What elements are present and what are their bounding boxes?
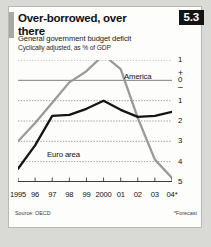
x-tick-label: 96 <box>31 190 39 199</box>
source-note: Source: OECD <box>15 210 51 216</box>
y-axis-labels: 1012345+– <box>176 60 198 182</box>
x-tick-label: 2000 <box>96 190 112 199</box>
x-tick-label: 01 <box>117 190 125 199</box>
series-label-euro: Euro area <box>47 150 80 159</box>
x-tick-label: 97 <box>48 190 56 199</box>
x-tick-label: 98 <box>65 190 73 199</box>
series-line-euro-area <box>18 101 172 169</box>
x-axis-labels: 199596979899200001020304* <box>10 190 190 202</box>
x-tick-label: 04* <box>167 190 178 199</box>
y-tick-label: 3 <box>178 137 182 145</box>
chart-subtitle: General government budget deficit <box>18 34 131 43</box>
series-label-america: America <box>124 72 152 81</box>
chart-units-label: Cyclically adjusted, as % of GDP <box>18 44 111 51</box>
y-tick-label: 5 <box>178 178 182 186</box>
chart-figure: Over-borrowed, over there 5.3 General go… <box>0 0 211 247</box>
title-accent-bar <box>9 12 14 38</box>
x-tick-label: 02 <box>134 190 142 199</box>
y-tick-label: 1 <box>178 56 182 64</box>
y-tick-label: 2 <box>178 117 182 125</box>
x-tick-label: 1995 <box>10 190 26 199</box>
x-tick-label: 03 <box>151 190 159 199</box>
forecast-note: *Forecast <box>174 210 197 216</box>
x-axis-ticks <box>18 178 172 182</box>
y-axis-minus-sign: – <box>178 83 183 91</box>
y-axis-plus-sign: + <box>178 69 183 77</box>
x-tick-label: 99 <box>82 190 90 199</box>
y-tick-label: 4 <box>178 158 182 166</box>
figure-number-badge: 5.3 <box>179 10 204 25</box>
y-tick-label: 1 <box>178 97 182 105</box>
